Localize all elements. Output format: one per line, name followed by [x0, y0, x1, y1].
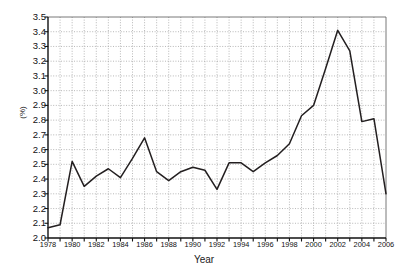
x-tick-label: 1990	[180, 240, 206, 249]
line-chart: (%) 2.02.12.22.32.42.52.62.72.82.93.03.1…	[0, 0, 408, 276]
y-tick-label: 2.9	[20, 100, 46, 109]
x-tick-label: 1992	[204, 240, 230, 249]
y-tick-label: 2.2	[20, 204, 46, 213]
x-tick-label: 2006	[373, 240, 399, 249]
x-tick-label: 1996	[252, 240, 278, 249]
y-tick-label: 2.4	[20, 174, 46, 183]
x-tick-label: 1982	[83, 240, 109, 249]
x-tick-label: 1998	[276, 240, 302, 249]
x-tick-label: 2002	[325, 240, 351, 249]
x-tick-label: 1986	[132, 240, 158, 249]
plot-area	[0, 0, 408, 276]
x-tick-label: 1984	[107, 240, 133, 249]
y-axis-tick-labels: 2.02.12.22.32.42.52.62.72.82.93.03.13.23…	[12, 0, 46, 276]
y-tick-label: 2.1	[20, 218, 46, 227]
x-tick-label: 1988	[156, 240, 182, 249]
y-tick-label: 3.1	[20, 71, 46, 80]
x-tick-label: 1980	[59, 240, 85, 249]
y-tick-label: 2.8	[20, 115, 46, 124]
y-tick-label: 3.3	[20, 41, 46, 50]
x-tick-label: 2000	[301, 240, 327, 249]
y-tick-label: 2.5	[20, 159, 46, 168]
y-tick-label: 3.4	[20, 27, 46, 36]
y-tick-label: 3.5	[20, 12, 46, 21]
y-tick-label: 2.7	[20, 130, 46, 139]
y-tick-label: 3.2	[20, 56, 46, 65]
x-tick-label: 1978	[35, 240, 61, 249]
x-tick-label: 1994	[228, 240, 254, 249]
y-tick-label: 2.6	[20, 145, 46, 154]
y-tick-label: 3.0	[20, 86, 46, 95]
x-tick-label: 2004	[349, 240, 375, 249]
y-tick-label: 2.3	[20, 189, 46, 198]
x-axis-title: Year	[0, 254, 408, 265]
